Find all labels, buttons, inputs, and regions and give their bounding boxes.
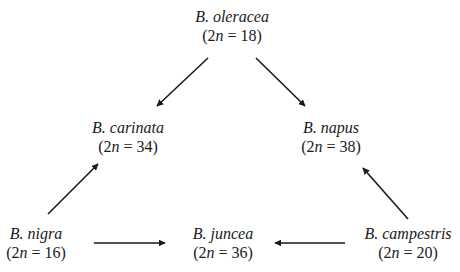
node-b-juncea: B. juncea (2n = 36): [193, 224, 253, 262]
chromosome-count: (2n = 38): [301, 137, 361, 156]
arrow-oleracea-to-napus: [256, 58, 305, 106]
chromosome-count: (2n = 20): [364, 243, 451, 262]
chromosome-count: (2n = 16): [6, 243, 66, 262]
arrow-oleracea-to-carinata: [157, 58, 208, 106]
node-b-carinata: B. carinata (2n = 34): [92, 118, 164, 156]
chromosome-count: (2n = 34): [92, 137, 164, 156]
species-name: B. campestris: [364, 224, 451, 243]
arrow-nigra-to-carinata: [48, 164, 98, 214]
brassica-triangle-diagram: B. oleracea (2n = 18) B. carinata (2n = …: [0, 0, 460, 272]
species-name: B. juncea: [193, 224, 253, 243]
species-name: B. nigra: [6, 224, 66, 243]
species-name: B. carinata: [92, 118, 164, 137]
chromosome-count: (2n = 36): [193, 243, 253, 262]
node-b-campestris: B. campestris (2n = 20): [364, 224, 451, 262]
node-b-oleracea: B. oleracea (2n = 18): [195, 7, 269, 45]
arrow-campestris-to-napus: [363, 168, 408, 219]
species-name: B. napus: [301, 118, 361, 137]
chromosome-count: (2n = 18): [195, 26, 269, 45]
node-b-nigra: B. nigra (2n = 16): [6, 224, 66, 262]
species-name: B. oleracea: [195, 7, 269, 26]
node-b-napus: B. napus (2n = 38): [301, 118, 361, 156]
